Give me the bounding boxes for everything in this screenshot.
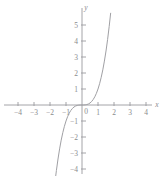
x-axis-label: x — [154, 100, 159, 109]
origin-label: 0 — [84, 107, 88, 116]
figure-container: y, ƒ(x) = x³ −4−3−2−11234 −4−3−2−112345 … — [0, 0, 164, 176]
x-tick-label: 2 — [112, 108, 116, 117]
x-tick-label: −4 — [14, 108, 22, 117]
x-tick-label: 3 — [128, 108, 132, 117]
y-tick-label: 4 — [74, 37, 78, 46]
y-tick-label: −3 — [70, 149, 78, 158]
y-tick-label: 3 — [74, 53, 78, 62]
x-tick-label: −3 — [30, 108, 38, 117]
y-tick-label: −1 — [70, 117, 78, 126]
x-tick-label: −1 — [62, 108, 70, 117]
y-tick-label: 5 — [74, 21, 78, 30]
x-tick-label: 1 — [96, 108, 100, 117]
y-tick-label: −4 — [70, 165, 78, 174]
cubic-function-plot: −4−3−2−11234 −4−3−2−112345 0 x y — [0, 0, 164, 176]
y-tick-label: 1 — [74, 85, 78, 94]
y-tick-label: 2 — [74, 69, 78, 78]
y-axis-label: y — [83, 3, 88, 12]
y-tick-label: −2 — [70, 133, 78, 142]
x-tick-label: −2 — [46, 108, 54, 117]
x-tick-label: 4 — [144, 108, 148, 117]
